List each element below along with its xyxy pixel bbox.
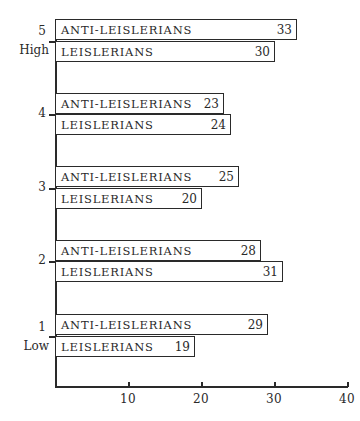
bar-label: ANTI-LEISLERIANS <box>61 318 192 332</box>
y-level-number: 5 <box>26 24 46 38</box>
horizontal-bar-chart: 10 20 30 40 5 High ANTI-LEISLERIANS 33 L… <box>0 0 360 421</box>
bar-level5-leislerians: LEISLERIANS 30 <box>55 41 275 62</box>
bar-value: 28 <box>241 244 256 258</box>
x-tick-label: 40 <box>332 392 360 406</box>
bar-value: 25 <box>219 170 234 184</box>
bar-level5-anti-leislerians: ANTI-LEISLERIANS 33 <box>55 19 297 40</box>
x-tick-10 <box>128 382 130 387</box>
bar-value: 31 <box>263 265 278 279</box>
bar-value: 24 <box>211 118 226 132</box>
bar-level2-anti-leislerians: ANTI-LEISLERIANS 28 <box>55 240 261 261</box>
x-tick-label: 30 <box>259 392 289 406</box>
bar-label: ANTI-LEISLERIANS <box>61 97 192 111</box>
bar-label: ANTI-LEISLERIANS <box>61 170 192 184</box>
bar-label: ANTI-LEISLERIANS <box>61 23 192 37</box>
bar-label: LEISLERIANS <box>61 340 154 354</box>
y-level-number: 2 <box>26 253 46 267</box>
bar-label: LEISLERIANS <box>61 265 154 279</box>
y-level-desc-low: Low <box>9 339 49 353</box>
bar-value: 29 <box>248 318 263 332</box>
bar-level2-leislerians: LEISLERIANS 31 <box>55 261 283 282</box>
bar-level3-leislerians: LEISLERIANS 20 <box>55 188 202 209</box>
bar-value: 20 <box>182 192 197 206</box>
bar-value: 33 <box>277 23 292 37</box>
x-tick-40 <box>347 382 349 387</box>
bar-value: 23 <box>204 97 219 111</box>
bar-level4-anti-leislerians: ANTI-LEISLERIANS 23 <box>55 93 224 114</box>
bar-level1-anti-leislerians: ANTI-LEISLERIANS 29 <box>55 314 268 335</box>
x-tick-label: 20 <box>186 392 216 406</box>
y-level-desc-high: High <box>9 43 49 57</box>
bar-value: 19 <box>175 340 190 354</box>
x-tick-20 <box>201 382 203 387</box>
bar-label: LEISLERIANS <box>61 192 154 206</box>
y-level-number: 3 <box>26 180 46 194</box>
bar-value: 30 <box>255 45 270 59</box>
bar-label: LEISLERIANS <box>61 45 154 59</box>
bar-level3-anti-leislerians: ANTI-LEISLERIANS 25 <box>55 166 239 187</box>
x-tick-30 <box>274 382 276 387</box>
bar-label: ANTI-LEISLERIANS <box>61 244 192 258</box>
bar-level1-leislerians: LEISLERIANS 19 <box>55 336 195 357</box>
x-tick-label: 10 <box>113 392 143 406</box>
y-level-number: 4 <box>26 106 46 120</box>
y-level-number: 1 <box>26 320 46 334</box>
bar-level4-leislerians: LEISLERIANS 24 <box>55 114 231 135</box>
bar-label: LEISLERIANS <box>61 118 154 132</box>
